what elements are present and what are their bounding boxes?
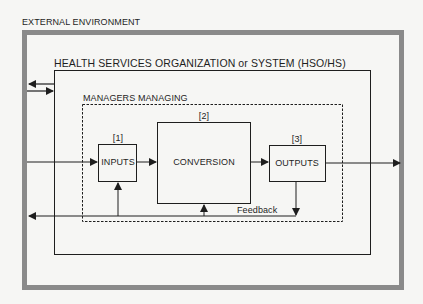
external-environment-label: EXTERNAL ENVIRONMENT bbox=[22, 17, 140, 27]
diagram-canvas bbox=[0, 0, 423, 304]
inputs-label: INPUTS bbox=[101, 157, 135, 167]
conversion-label: CONVERSION bbox=[173, 157, 235, 167]
outputs-number: [3] bbox=[292, 134, 302, 144]
organization-label: HEALTH SERVICES ORGANIZATION or SYSTEM (… bbox=[54, 57, 346, 69]
feedback-label: Feedback bbox=[237, 205, 277, 215]
conversion-number: [2] bbox=[199, 111, 209, 121]
outputs-label: OUTPUTS bbox=[275, 158, 319, 168]
managers-managing-label: MANAGERS MANAGING bbox=[83, 93, 188, 103]
inputs-number: [1] bbox=[113, 133, 123, 143]
